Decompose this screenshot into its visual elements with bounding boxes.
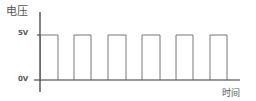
pulse-1	[41, 35, 59, 80]
pulse-6	[210, 35, 227, 80]
pulse-4	[142, 35, 160, 80]
pulse-5	[176, 35, 193, 80]
pulse-2	[74, 35, 91, 80]
square-wave-diagram	[0, 0, 256, 101]
pulse-group	[41, 35, 228, 80]
pulse-3	[108, 35, 126, 80]
